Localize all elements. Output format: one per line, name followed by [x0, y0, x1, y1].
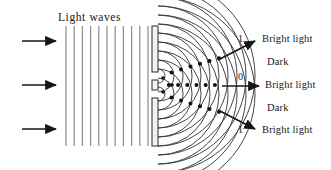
interference-dot [185, 83, 189, 87]
interference-dot [198, 62, 202, 66]
fringe-order-upper: 1 [238, 34, 243, 44]
barrier-segment-bottom [152, 98, 158, 146]
interference-dot [167, 83, 171, 87]
interference-dot [170, 71, 174, 75]
fringe-order-lower: 1 [238, 125, 243, 135]
interference-dot [189, 65, 193, 69]
interference-dot [198, 104, 202, 108]
interference-dot [170, 83, 174, 87]
interference-dot [161, 76, 165, 80]
interference-dot [213, 83, 217, 87]
fringe-label-dark-upper: Dark [267, 57, 289, 68]
double-slit-barrier [152, 26, 158, 146]
interference-dot [179, 68, 183, 72]
interference-dot [170, 96, 174, 100]
fringe-label-bright-upper: Bright light [262, 34, 313, 45]
interference-dot [204, 83, 208, 87]
fringe-order-central: 0 [238, 72, 243, 82]
fringe-label-dark-lower: Dark [267, 103, 289, 114]
interference-dot [208, 59, 212, 63]
fringe-label-bright-lower: Bright light [262, 125, 313, 136]
fringe-label-bright-central: Bright light [265, 80, 316, 91]
incoming-arrows-group [22, 41, 56, 129]
interference-dot [176, 83, 180, 87]
barrier-segment-middle [152, 80, 158, 90]
interference-dot [179, 99, 183, 103]
interference-dot [195, 83, 199, 87]
plane-waves-title: Light waves [58, 12, 121, 24]
interference-dot [189, 101, 193, 105]
figure-canvas: Light waves 1 0 1 Bright light Dark Brig… [0, 0, 331, 170]
plane-wavefronts-group [66, 26, 148, 146]
interference-dot [161, 90, 165, 94]
barrier-segment-top [152, 26, 158, 72]
interference-dot [208, 107, 212, 111]
